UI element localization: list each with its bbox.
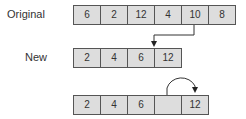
shift-arrow-icon <box>167 78 198 95</box>
arrows <box>0 0 246 119</box>
copy-arrow-icon <box>151 25 194 47</box>
